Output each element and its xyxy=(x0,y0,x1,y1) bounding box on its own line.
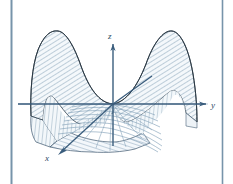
figure-container: x y z xyxy=(0,0,233,184)
y-axis-label: y xyxy=(210,100,215,110)
surface-plot-figure: x y z xyxy=(0,0,233,184)
z-axis-label: z xyxy=(107,31,112,41)
x-axis-label: x xyxy=(44,153,49,163)
